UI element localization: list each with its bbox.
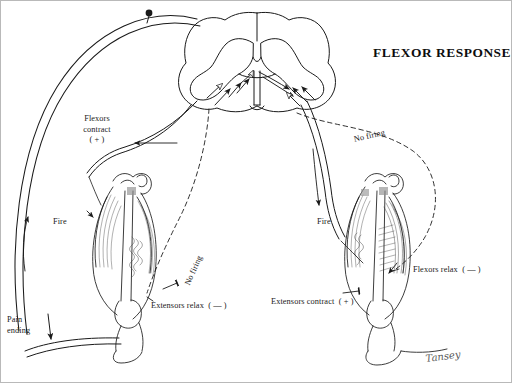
label-extensors-contract: Extensors contract ( + )	[271, 297, 354, 308]
label-fire-right: Fire	[317, 217, 331, 228]
skin-surface-line	[25, 338, 121, 357]
figure-title: FLEXOR RESPONSE	[373, 45, 511, 61]
label-pain-ending: Pain ending	[7, 315, 30, 336]
label-fire-left: Fire	[53, 217, 67, 228]
pain-ending-arrow	[48, 314, 51, 339]
label-flexors-contract: Flexors contract ( + )	[69, 114, 125, 146]
flexor-response-figure: FLEXOR RESPONSE Flexors contract ( + ) F…	[0, 0, 512, 383]
afferent-neuron-cell-body	[146, 10, 153, 17]
left-hindlimb-flexed	[87, 174, 177, 363]
label-extensors-relax: Extensors relax ( — )	[151, 301, 227, 312]
butterfly-gray-matter	[190, 39, 324, 100]
central-canal	[254, 71, 260, 105]
label-flexors-relax: Flexors relax ( — )	[413, 265, 481, 276]
